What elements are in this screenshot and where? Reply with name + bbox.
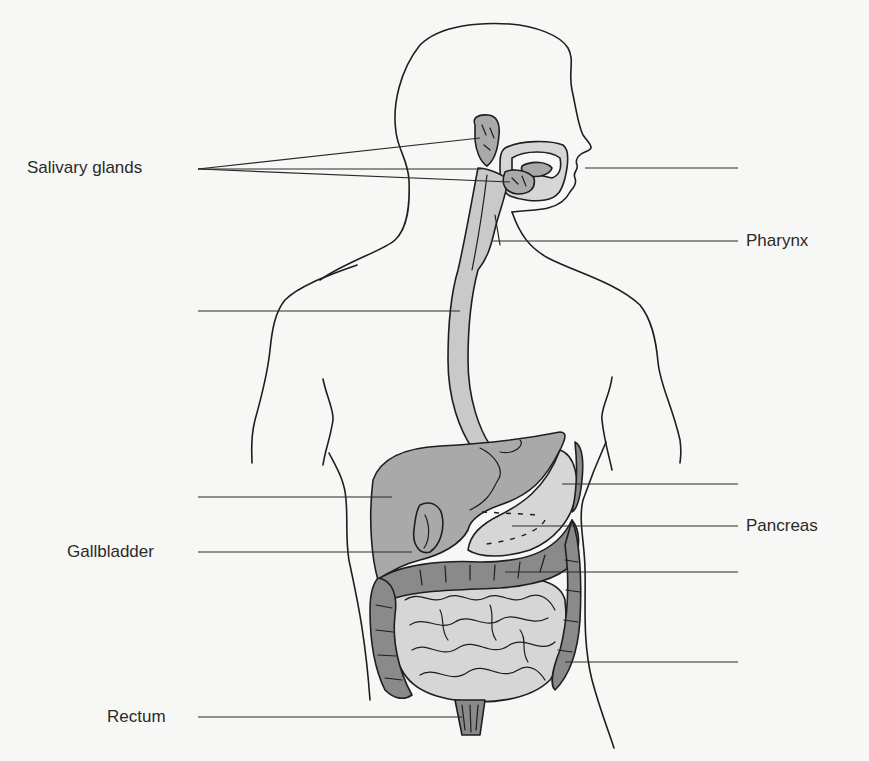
esophagus — [448, 168, 508, 448]
label-pharynx: Pharynx — [746, 231, 808, 251]
digestive-system-diagram: Salivary glands Pharynx Pancreas Gallbla… — [0, 0, 869, 761]
label-gallbladder: Gallbladder — [67, 542, 154, 562]
label-rectum: Rectum — [107, 707, 166, 727]
salivary-leader-3 — [198, 169, 510, 182]
label-salivary-glands: Salivary glands — [27, 158, 142, 178]
label-pancreas: Pancreas — [746, 516, 818, 536]
salivary-leader-1 — [198, 138, 480, 169]
